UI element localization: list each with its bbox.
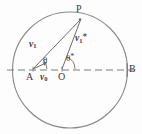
label-point-A: A bbox=[26, 72, 33, 82]
label-vector-v0: v0 bbox=[40, 73, 47, 83]
label-vector-v0-subscript: 0 bbox=[44, 75, 47, 82]
label-vector-v1-star-superscript: * bbox=[82, 32, 86, 41]
label-angle-theta-star: θ* bbox=[66, 53, 74, 63]
label-vector-v1-star: v1* bbox=[75, 33, 86, 44]
point-P-marker bbox=[79, 18, 82, 21]
label-point-P: P bbox=[76, 4, 82, 14]
label-point-B: B bbox=[129, 64, 136, 74]
diagram-canvas bbox=[0, 0, 142, 134]
label-vector-v1: v1 bbox=[29, 40, 36, 50]
label-angle-theta: θ bbox=[43, 56, 47, 65]
label-angle-theta-star-superscript: * bbox=[70, 52, 74, 61]
scattering-diagram-figure: P B A O v1 v1* v0 θ θ* bbox=[0, 0, 142, 134]
label-point-O: O bbox=[58, 72, 65, 82]
label-vector-v1-subscript: 1 bbox=[33, 42, 36, 49]
